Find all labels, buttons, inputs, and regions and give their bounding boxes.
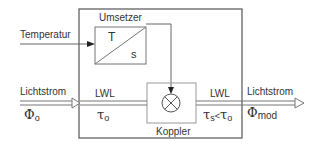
fiber-in-symbol: τo: [97, 108, 109, 123]
converter-output-symbol: s: [131, 49, 137, 60]
converter-title: Umsetzer: [99, 13, 142, 23]
light-output-arrowhead: [295, 98, 304, 108]
light-output-label: Lichtstrom: [247, 87, 293, 97]
light-input-label: Lichtstrom: [20, 87, 66, 97]
light-output-symbol: Φmod: [247, 106, 277, 121]
converter-input-symbol: T: [108, 31, 115, 43]
fiber-out-label: LWL: [210, 89, 230, 99]
coupler-title: Koppler: [156, 127, 190, 137]
fiber-out-symbol: τs<τo: [203, 108, 232, 123]
light-input-symbol: Φo: [24, 108, 40, 123]
converter-coupler-link: [146, 24, 171, 88]
temperature-arrowhead: [87, 41, 95, 47]
temperature-label: Temperatur: [20, 30, 71, 40]
coupler-arrowhead: [168, 87, 174, 94]
fiber-in-label: LWL: [95, 89, 115, 99]
converter-diagonal: [95, 27, 146, 64]
diagram-canvas: [0, 0, 323, 146]
